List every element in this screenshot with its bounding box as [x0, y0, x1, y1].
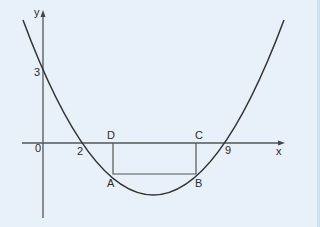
point-label-c: C — [195, 130, 203, 141]
parabola-diagram — [0, 0, 300, 227]
x-axis-label: x — [276, 146, 282, 157]
y-intercept-label: 3 — [34, 67, 40, 78]
parabola-curve — [23, 20, 284, 195]
y-axis-arrow-icon — [41, 10, 46, 17]
origin-label: 0 — [35, 143, 41, 154]
point-label-d: D — [107, 130, 115, 141]
point-label-a: A — [107, 178, 114, 189]
rectangle-abcd — [113, 143, 196, 174]
x-intercept-label-9: 9 — [225, 145, 231, 156]
y-axis-label: y — [34, 7, 40, 18]
point-label-b: B — [195, 178, 202, 189]
x-intercept-label-2: 2 — [77, 146, 83, 157]
